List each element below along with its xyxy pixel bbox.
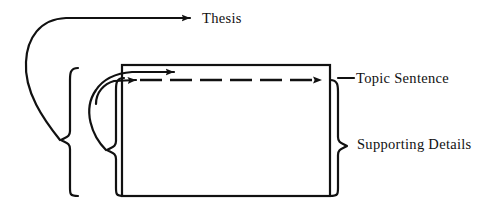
label-supporting-details: Supporting Details — [357, 137, 472, 152]
topic-connector-arrow — [89, 72, 174, 150]
topic-sentence-arrowhead-icon — [313, 77, 322, 84]
paragraph-box — [122, 65, 330, 196]
label-thesis: Thesis — [202, 11, 242, 26]
left-outer-brace — [61, 68, 78, 196]
right-brace — [330, 80, 347, 196]
diagram-vector-layer — [0, 0, 484, 213]
diagram-canvas: Thesis Topic Sentence Supporting Details — [0, 0, 484, 213]
label-topic-sentence: Topic Sentence — [356, 71, 449, 86]
